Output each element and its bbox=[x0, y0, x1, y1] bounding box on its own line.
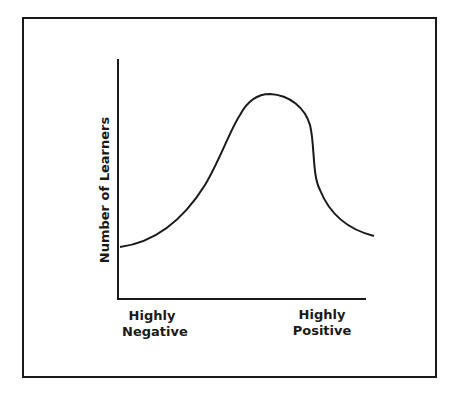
x-right-label-line1: Highly bbox=[292, 307, 352, 323]
y-axis-label: Number of Learners bbox=[97, 117, 112, 263]
x-tick-label-negative: Highly Negative bbox=[122, 308, 182, 340]
x-tick-label-positive: Highly Positive bbox=[292, 307, 352, 339]
distribution-curve bbox=[120, 94, 374, 247]
x-left-label-line1: Highly bbox=[122, 308, 182, 324]
chart-plot bbox=[0, 0, 463, 399]
x-left-label-line2: Negative bbox=[122, 324, 182, 340]
x-right-label-line2: Positive bbox=[292, 323, 352, 339]
